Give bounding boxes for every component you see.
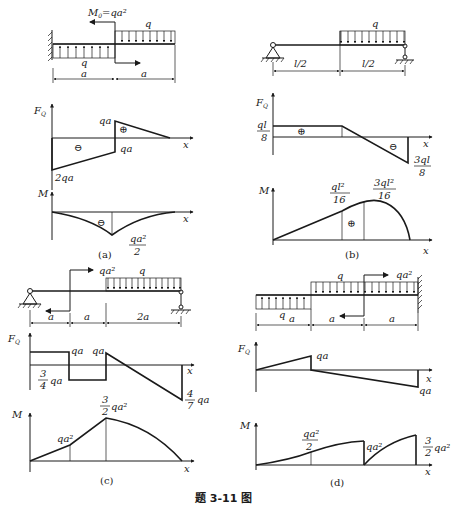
shear-label-qa-1: qa [71, 345, 83, 356]
shear-left-num: ql [257, 119, 267, 130]
moment-max-suffix: qa² [111, 401, 127, 412]
moment-diagram-d: M x qa² 2 qa² 3 2 qa² [239, 420, 450, 477]
shear-right-num: 3ql [414, 154, 430, 165]
axis-m: M [37, 188, 49, 199]
sign-negative: ⊖ [389, 141, 397, 152]
shear-label-top: qa [316, 350, 328, 361]
moment-mid-den: 16 [333, 194, 346, 205]
load-label: q [139, 265, 145, 276]
shear-right-suffix: qa [197, 394, 209, 405]
shear-label-bottom: qa [419, 385, 431, 396]
shear-label-qa-top: qa [99, 115, 111, 126]
dim-1: a [48, 311, 54, 322]
moment-label3-num: 3 [425, 435, 431, 446]
axis-fq: FQ [7, 333, 20, 345]
dim-3: a [389, 313, 395, 324]
moment-label1-num: qa² [303, 428, 319, 439]
dim-left: l/2 [294, 58, 307, 69]
axis-m: M [11, 409, 23, 420]
shear-left-suffix: qa [50, 375, 62, 386]
dim-right: a [141, 68, 147, 79]
axis-m: M [239, 420, 251, 431]
dim-left: a [81, 68, 87, 79]
moment-label1-den: 2 [305, 441, 312, 452]
axis-x: x [184, 463, 190, 474]
load-label-top: q [337, 270, 343, 281]
shear-diagram-d: FQ x qa qa [237, 342, 432, 396]
shear-right-den: 7 [187, 400, 194, 411]
axis-x: x [425, 466, 431, 477]
moment-label-den: 2 [133, 246, 140, 257]
moment-diagram-c: M x qa² 3 2 qa² [11, 394, 194, 474]
shear-right-den: 8 [419, 167, 425, 178]
dim-2: a [84, 311, 90, 322]
axis-fq: FQ [237, 343, 250, 355]
diagram-canvas: M0=qa² q q a a FQ x qa qa 2qa ⊖ ⊕ M [0, 0, 458, 507]
panel-label-d: (d) [330, 477, 344, 488]
axis-x: x [187, 365, 193, 376]
panel-label-a: (a) [98, 249, 112, 260]
shear-left-num: 3 [40, 368, 46, 379]
moment-label3-den: 2 [424, 447, 431, 458]
shear-left-den: 8 [261, 132, 267, 143]
moment-label3-suffix: qa² [434, 442, 450, 453]
moment-label: qa² [99, 265, 115, 276]
panel-a: M0=qa² q q a a FQ x qa qa 2qa ⊖ ⊕ M [33, 7, 193, 260]
moment-label: qa² [396, 269, 412, 280]
shear-right-num: 4 [186, 388, 193, 399]
sign-positive: ⊕ [119, 124, 127, 135]
beam-d: q q [256, 269, 422, 331]
panel-c: qa² q [7, 265, 209, 486]
moment-diagram-a: M x ⊖ qa² 2 [37, 188, 193, 257]
moment-diagram-b: M x ⊕ ql² 16 3ql² 16 [258, 177, 432, 256]
moment-max-den: 2 [101, 406, 108, 417]
axis-x: x [183, 213, 189, 224]
moment-label: M0=qa² [87, 7, 127, 19]
dim-3: 2a [136, 311, 149, 322]
shear-left-den: 4 [39, 380, 46, 391]
shear-diagram-b: FQ x ql 8 3ql 8 ⊕ ⊖ [255, 93, 432, 178]
axis-x: x [423, 245, 429, 256]
beam-a: M0=qa² q q a a [48, 7, 175, 83]
moment-label-num: qa² [130, 233, 146, 244]
sign-negative: ⊖ [74, 142, 82, 153]
shear-label-2qa: 2qa [54, 172, 74, 183]
sign-positive: ⊕ [297, 126, 305, 137]
axis-x: x [426, 373, 432, 384]
shear-diagram-a: FQ x qa qa 2qa ⊖ ⊕ [33, 104, 193, 190]
panel-label-b: (b) [345, 249, 359, 260]
moment-max-num: 3ql² [374, 177, 394, 188]
dim-right: l/2 [362, 58, 375, 69]
axis-fq: FQ [255, 97, 268, 109]
shear-label-qa-2: qa [92, 345, 104, 356]
beam-b: q l/2 l/2 [261, 18, 414, 76]
axis-m: M [258, 185, 270, 196]
sign-positive: ⊕ [347, 218, 355, 229]
moment-max-den: 16 [378, 190, 391, 201]
axis-fq: FQ [33, 105, 46, 117]
axis-x: x [183, 139, 189, 150]
load-label-left: q [81, 57, 87, 68]
shear-label-qa-bottom: qa [120, 143, 132, 154]
sign-negative: ⊖ [97, 217, 105, 228]
load-label: q [372, 18, 378, 29]
figure-caption: 题 3-11 图 [195, 492, 252, 505]
load-label-bottom: q [279, 309, 285, 320]
moment-mid-num: ql² [331, 181, 345, 192]
moment-label-1: qa² [57, 433, 73, 444]
beam-c: qa² q [18, 265, 191, 327]
axis-x: x [423, 138, 429, 149]
panel-label-c: (c) [100, 475, 114, 486]
panel-b: q l/2 l/2 FQ x ql 8 3ql 8 ⊕ ⊖ [255, 18, 432, 260]
dim-2: a [329, 313, 335, 324]
dim-1: a [289, 313, 295, 324]
moment-label-2: qa² [366, 441, 382, 452]
moment-max-num: 3 [102, 394, 108, 405]
panel-d: q q [237, 269, 450, 488]
load-label-right: q [145, 18, 151, 29]
